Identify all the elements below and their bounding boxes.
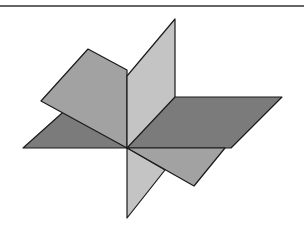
figure-canvas [0,0,304,237]
intersecting-planes-diagram [0,0,304,237]
